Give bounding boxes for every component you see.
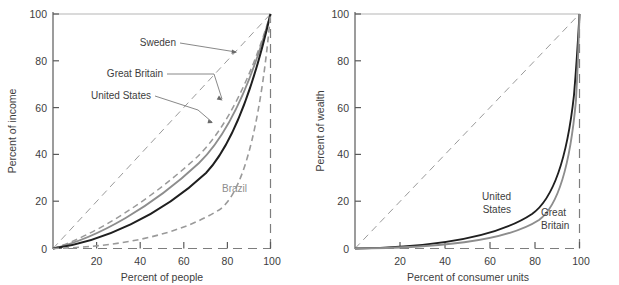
y-tick-marks bbox=[355, 14, 361, 201]
y-tick-label-100: 100 bbox=[29, 8, 47, 20]
x-tick-label-40: 40 bbox=[134, 255, 146, 267]
annotation-great-britain-line2: Britain bbox=[541, 220, 569, 231]
x-tick-marks bbox=[97, 242, 271, 249]
lorenz-curves-figure: 100 80 60 40 20 0 20 40 60 80 100 Percen… bbox=[0, 0, 619, 285]
y-tick-label-60: 60 bbox=[35, 102, 47, 114]
x-axis-title: Percent of consumer units bbox=[407, 271, 529, 283]
leader-sweden bbox=[180, 43, 236, 52]
chart-panel-income: 100 80 60 40 20 0 20 40 60 80 100 Percen… bbox=[0, 0, 309, 285]
x-tick-label-60: 60 bbox=[484, 255, 496, 267]
y-tick-label-40: 40 bbox=[35, 148, 47, 160]
x-tick-label-100: 100 bbox=[263, 255, 281, 267]
wealth-chart-svg: 100 80 60 40 20 0 20 40 60 80 100 Percen… bbox=[310, 0, 619, 285]
y-axis-title: Percent of wealth bbox=[314, 90, 326, 171]
leader-united-states bbox=[155, 96, 212, 122]
chart-panel-wealth: 100 80 60 40 20 0 20 40 60 80 100 Percen… bbox=[310, 0, 619, 285]
x-axis-title: Percent of people bbox=[121, 271, 203, 283]
y-tick-label-40: 40 bbox=[337, 148, 349, 160]
y-tick-label-60: 60 bbox=[337, 102, 349, 114]
x-tick-label-40: 40 bbox=[439, 255, 451, 267]
income-chart-svg: 100 80 60 40 20 0 20 40 60 80 100 Percen… bbox=[0, 0, 309, 285]
y-tick-label-80: 80 bbox=[337, 55, 349, 67]
curve-line-of-equality bbox=[53, 14, 271, 249]
y-tick-label-0: 0 bbox=[343, 243, 349, 255]
y-tick-label-0: 0 bbox=[41, 243, 47, 255]
x-tick-label-80: 80 bbox=[529, 255, 541, 267]
y-tick-marks bbox=[53, 14, 59, 201]
annotation-brazil: Brazil bbox=[222, 183, 247, 194]
annotation-united-states-line1: United bbox=[482, 191, 511, 202]
y-tick-label-20: 20 bbox=[337, 195, 349, 207]
x-tick-label-80: 80 bbox=[222, 255, 234, 267]
y-tick-label-80: 80 bbox=[35, 55, 47, 67]
x-tick-label-20: 20 bbox=[394, 255, 406, 267]
annotation-leaders bbox=[155, 43, 237, 123]
x-tick-label-100: 100 bbox=[572, 255, 590, 267]
x-tick-label-60: 60 bbox=[178, 255, 190, 267]
annotation-united-states-line2: States bbox=[483, 204, 511, 215]
y-tick-label-100: 100 bbox=[331, 8, 349, 20]
y-axis-title: Percent of income bbox=[6, 89, 18, 174]
y-tick-label-20: 20 bbox=[35, 195, 47, 207]
annotation-united-states: United States bbox=[91, 90, 151, 101]
annotation-great-britain-line1: Great bbox=[541, 207, 566, 218]
annotation-sweden: Sweden bbox=[140, 37, 176, 48]
annotation-great-britain: Great Britain bbox=[107, 68, 163, 79]
x-tick-label-20: 20 bbox=[91, 255, 103, 267]
